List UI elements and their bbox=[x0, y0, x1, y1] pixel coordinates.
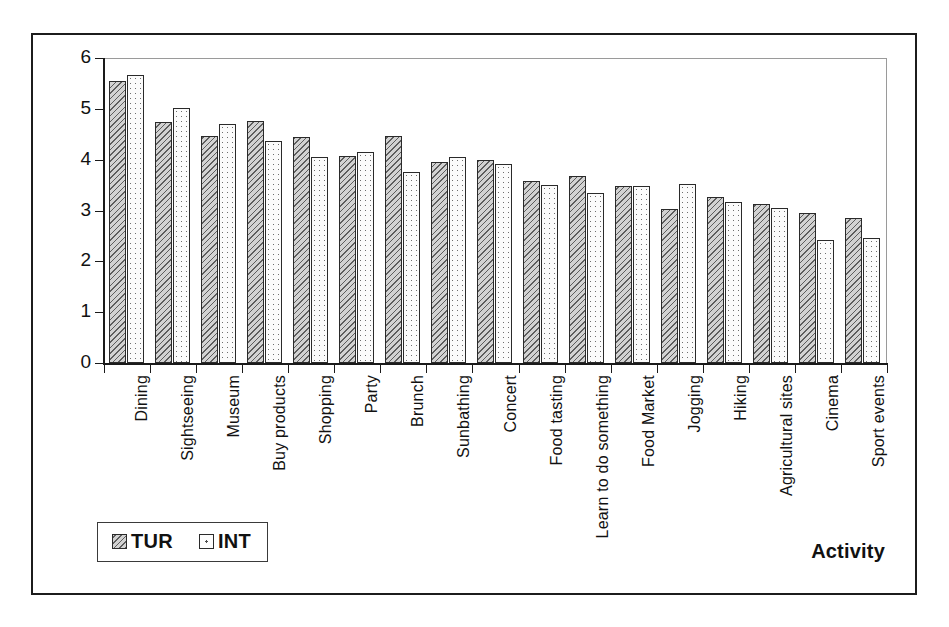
bar-tur-8 bbox=[477, 160, 494, 363]
x-axis-category-label: Museum bbox=[225, 375, 243, 438]
y-axis-tick bbox=[95, 261, 104, 262]
x-axis-tick bbox=[380, 365, 381, 373]
legend-label-tur: TUR bbox=[131, 530, 173, 553]
x-axis-line bbox=[103, 363, 888, 365]
x-axis-category-label: Hiking bbox=[732, 375, 750, 421]
bar-int-4 bbox=[311, 157, 328, 363]
bar-int-12 bbox=[679, 184, 696, 363]
bar-int-5 bbox=[357, 152, 374, 363]
x-axis-tick bbox=[242, 365, 243, 373]
x-axis-tick bbox=[749, 365, 750, 373]
legend-entry-int: INT bbox=[199, 530, 251, 553]
bar-int-9 bbox=[541, 185, 558, 363]
bar-tur-12 bbox=[661, 209, 678, 363]
x-axis-category-label: Brunch bbox=[409, 375, 427, 427]
bar-int-3 bbox=[265, 141, 282, 363]
bar-int-7 bbox=[449, 157, 466, 363]
figure-frame: Average (weigthed) 6543210 DiningSightse… bbox=[31, 33, 917, 595]
bar-tur-16 bbox=[845, 218, 862, 363]
y-axis-tick bbox=[95, 363, 104, 364]
bar-int-6 bbox=[403, 172, 420, 363]
bar-int-14 bbox=[771, 208, 788, 363]
x-axis-category-label: Food Market bbox=[640, 375, 658, 467]
y-axis-tick-label: 1 bbox=[45, 300, 91, 322]
x-axis-category-label: Learn to do something bbox=[594, 375, 612, 538]
bar-chart: Average (weigthed) 6543210 DiningSightse… bbox=[33, 35, 915, 593]
bar-int-11 bbox=[633, 186, 650, 363]
y-axis-tick bbox=[95, 160, 104, 161]
x-axis-category-label: Cinema bbox=[824, 375, 842, 431]
x-axis-category-label: Food tasting bbox=[548, 375, 566, 465]
x-axis-tick bbox=[519, 365, 520, 373]
bar-tur-11 bbox=[615, 186, 632, 363]
x-axis-category-label: Sunbathing bbox=[455, 375, 473, 458]
bar-int-2 bbox=[219, 124, 236, 363]
y-axis-tick-label: 3 bbox=[45, 199, 91, 221]
bar-int-0 bbox=[127, 75, 144, 363]
x-axis-tick bbox=[795, 365, 796, 373]
x-axis-category-label: Shopping bbox=[317, 375, 335, 444]
bar-int-15 bbox=[817, 240, 834, 363]
x-axis-category-label: Dining bbox=[133, 375, 151, 422]
bar-tur-3 bbox=[247, 121, 264, 363]
y-axis-tick bbox=[95, 58, 104, 59]
bars-layer bbox=[104, 58, 887, 363]
bar-int-1 bbox=[173, 108, 190, 363]
x-axis-category-label: Buy products bbox=[271, 375, 289, 471]
bar-int-10 bbox=[587, 193, 604, 363]
x-axis-tick bbox=[426, 365, 427, 373]
bar-tur-4 bbox=[293, 137, 310, 363]
bar-tur-0 bbox=[109, 81, 126, 363]
legend-swatch-int-icon bbox=[199, 534, 214, 549]
y-axis-tick bbox=[95, 312, 104, 313]
x-axis-category-label: Agricultural sites bbox=[778, 375, 796, 496]
x-axis-tick bbox=[472, 365, 473, 373]
y-axis-tick bbox=[95, 109, 104, 110]
y-axis-tick-label: 2 bbox=[45, 249, 91, 271]
bar-tur-5 bbox=[339, 156, 356, 363]
y-axis-tick-label: 4 bbox=[45, 148, 91, 170]
x-axis-tick bbox=[703, 365, 704, 373]
x-axis-tick bbox=[334, 365, 335, 373]
x-axis-tick bbox=[565, 365, 566, 373]
bar-tur-1 bbox=[155, 122, 172, 363]
bar-tur-10 bbox=[569, 176, 586, 363]
x-axis-category-label: Party bbox=[363, 375, 381, 413]
x-axis-category-label: Jogging bbox=[686, 375, 704, 432]
bar-tur-2 bbox=[201, 136, 218, 363]
y-axis-tick-label: 0 bbox=[45, 351, 91, 373]
x-axis-category-label: Sport events bbox=[870, 375, 888, 467]
legend-swatch-tur-icon bbox=[112, 534, 127, 549]
bar-tur-15 bbox=[799, 213, 816, 363]
y-axis-tick-label: 5 bbox=[45, 97, 91, 119]
x-axis-tick bbox=[104, 365, 105, 373]
x-axis-tick bbox=[288, 365, 289, 373]
x-axis-category-label: Concert bbox=[502, 375, 520, 432]
bar-tur-13 bbox=[707, 197, 724, 363]
bar-tur-14 bbox=[753, 204, 770, 363]
y-axis-tick-label: 6 bbox=[45, 46, 91, 68]
x-axis-tick bbox=[841, 365, 842, 373]
x-axis-tick bbox=[611, 365, 612, 373]
bar-tur-9 bbox=[523, 181, 540, 363]
x-axis-category-label: Sightseeing bbox=[179, 375, 197, 461]
x-axis-tick bbox=[196, 365, 197, 373]
bar-tur-6 bbox=[385, 136, 402, 363]
x-axis-title: Activity bbox=[811, 540, 885, 563]
bar-int-16 bbox=[863, 238, 880, 363]
x-axis-tick bbox=[887, 365, 888, 373]
x-axis-tick bbox=[150, 365, 151, 373]
x-axis-tick bbox=[657, 365, 658, 373]
y-axis-tick bbox=[95, 211, 104, 212]
bar-tur-7 bbox=[431, 162, 448, 363]
legend: TUR INT bbox=[97, 522, 268, 562]
bar-int-8 bbox=[495, 164, 512, 363]
bar-int-13 bbox=[725, 202, 742, 363]
legend-entry-tur: TUR bbox=[112, 530, 173, 553]
legend-label-int: INT bbox=[218, 530, 251, 553]
